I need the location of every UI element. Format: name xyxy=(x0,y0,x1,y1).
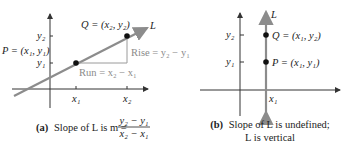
caption-b-text1: Slope of L is undefined; xyxy=(229,119,330,130)
label-q: Q = (x₂, y₂) xyxy=(81,19,130,31)
rise-run-triangle xyxy=(76,36,127,63)
slope-denominator: x₂ − x₁ xyxy=(119,128,149,139)
caption-a-letter: (a) xyxy=(36,122,49,134)
label-y1-b: y₁ xyxy=(225,56,234,67)
label-x1-b: x₁ xyxy=(268,93,277,104)
point-p xyxy=(73,60,79,66)
point-q-b xyxy=(263,32,269,38)
slope-numerator: y₂ − y₁ xyxy=(119,115,149,126)
panel-a: Q = (x₂, y₂) L y₂ P = (x₁, y₁) y₁ Rise =… xyxy=(1,14,190,139)
slope-diagram: Q = (x₂, y₂) L y₂ P = (x₁, y₁) y₁ Rise =… xyxy=(0,0,346,152)
label-line-l-b: L xyxy=(270,9,277,20)
caption-b-letter: (b) xyxy=(210,119,223,131)
label-rise: Rise = y₂ − y₁ xyxy=(131,47,190,58)
caption-a: (a) Slope of L is m = xyxy=(36,122,127,134)
label-q-b: Q = (x₁, y₂) xyxy=(272,30,321,42)
point-q xyxy=(124,33,130,39)
caption-a-text: Slope of L is m = xyxy=(54,122,127,133)
label-x1: x₁ xyxy=(71,93,80,104)
caption-b-line2: L is vertical xyxy=(245,132,295,143)
label-p: P = (x₁, y₁) xyxy=(1,45,50,57)
label-p-b: P = (x₁, y₁) xyxy=(271,57,320,69)
label-y2-b: y₂ xyxy=(225,29,235,40)
panel-b: L y₂ y₁ Q = (x₁, y₂) P = (x₁, y₁) x₁ (b)… xyxy=(200,9,340,143)
label-y1: y₁ xyxy=(36,57,45,68)
label-line-l: L xyxy=(149,20,156,31)
label-run: Run = x₂ − x₁ xyxy=(79,67,137,78)
caption-b-line1: (b) Slope of L is undefined; xyxy=(210,119,330,131)
point-p-b xyxy=(263,59,269,65)
label-x2: x₂ xyxy=(122,93,132,104)
label-y2: y₂ xyxy=(36,30,46,41)
